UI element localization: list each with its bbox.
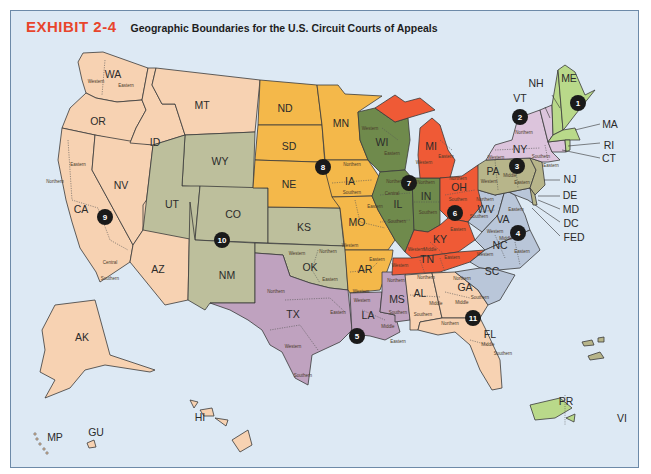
state-ak [40, 300, 155, 398]
district-label: Eastern [444, 255, 460, 260]
district-label: Middle [429, 301, 443, 306]
district-label: Eastern [390, 339, 406, 344]
label-wy: WY [212, 155, 229, 167]
district-label: Northern [267, 289, 285, 294]
district-label: Southern [388, 219, 407, 224]
district-label: Southern [532, 154, 551, 159]
svg-text:3: 3 [515, 162, 520, 171]
label-fl: FL [484, 328, 496, 340]
territory-mp [34, 433, 48, 454]
circuit-badge-2[interactable]: 2 [512, 109, 528, 125]
label-me: ME [561, 72, 577, 84]
district-label: Eastern [438, 154, 454, 159]
label-or: OR [90, 115, 106, 127]
district-label: Southern [414, 312, 433, 317]
svg-text:9: 9 [103, 213, 108, 222]
district-label: Northern [417, 275, 435, 280]
district-label: Western [285, 344, 302, 349]
circuit-badge-9[interactable]: 9 [97, 209, 113, 225]
label-mp: MP [47, 431, 63, 443]
label-nh: NH [528, 77, 543, 89]
label-wi: WI [376, 136, 389, 148]
district-label: Western [289, 251, 306, 256]
label-wv: WV [478, 203, 495, 215]
label-oh: OH [451, 181, 467, 193]
district-label: Western [354, 298, 371, 303]
district-label: Southern [471, 295, 490, 300]
district-label: Middle [503, 173, 517, 178]
label-vt: VT [513, 92, 527, 104]
svg-text:7: 7 [407, 179, 412, 188]
label-ri: RI [604, 139, 615, 151]
district-label: Southern [343, 190, 362, 195]
circuit-badge-3[interactable]: 3 [509, 158, 525, 174]
district-label: Southern [449, 197, 468, 202]
label-ak: AK [75, 331, 89, 343]
circuit-badge-11[interactable]: 11 [465, 310, 481, 326]
district-label: Western [487, 229, 504, 234]
district-label: Western [416, 160, 433, 165]
label-mt: MT [194, 99, 210, 111]
district-label: Eastern [367, 204, 383, 209]
label-wa: WA [105, 68, 122, 80]
circuit-badge-6[interactable]: 6 [447, 205, 463, 221]
circuit-badge-10[interactable]: 10 [214, 232, 230, 248]
district-label: Western [392, 263, 409, 268]
circuit-badge-4[interactable]: 4 [510, 225, 526, 241]
svg-text:8: 8 [321, 163, 326, 172]
district-label: Northern [46, 179, 64, 184]
label-il: IL [394, 198, 403, 210]
label-pr: PR [559, 395, 574, 407]
label-gu: GU [88, 426, 104, 438]
label-sc: SC [485, 265, 500, 277]
label-ms: MS [389, 293, 405, 305]
district-label: Eastern [330, 310, 346, 315]
label-fed: FED [564, 231, 585, 243]
district-label: Middle [423, 247, 437, 252]
district-label: Western [362, 126, 379, 131]
label-dc: DC [563, 217, 579, 229]
circuit-badge-5[interactable]: 5 [349, 328, 365, 344]
label-mi: MI [425, 140, 437, 152]
label-va: VA [496, 213, 509, 225]
label-ct: CT [602, 152, 617, 164]
label-ia: IA [345, 175, 355, 187]
district-label: Northern [343, 162, 361, 167]
label-vi: VI [617, 412, 627, 424]
district-label: Middle [381, 324, 395, 329]
district-label: Central [103, 260, 118, 265]
svg-text:5: 5 [355, 332, 360, 341]
svg-text:11: 11 [469, 314, 478, 323]
label-de: DE [563, 189, 578, 201]
label-ma: MA [602, 118, 618, 130]
label-tx: TX [286, 308, 299, 320]
district-label: Eastern [369, 257, 385, 262]
label-hi: HI [195, 411, 206, 423]
state-hi [190, 400, 252, 452]
label-id: ID [150, 136, 161, 148]
district-label: Eastern [514, 180, 530, 185]
district-label: Western [342, 243, 359, 248]
district-label: Southern [389, 310, 408, 315]
circuit-badge-7[interactable]: 7 [401, 175, 417, 191]
label-md: MD [563, 203, 580, 215]
district-label: Central [385, 191, 400, 196]
svg-text:1: 1 [576, 99, 581, 108]
district-label: Eastern [322, 277, 338, 282]
district-label: Northern [476, 197, 494, 202]
label-ok: OK [302, 261, 317, 273]
district-label: Eastern [514, 249, 530, 254]
district-label: Southern [294, 373, 313, 378]
label-pa: PA [486, 165, 499, 177]
district-label: Eastern [384, 151, 400, 156]
label-la: LA [362, 309, 375, 321]
district-label: Eastern [70, 162, 86, 167]
district-label: Northern [453, 276, 471, 281]
district-label: Western [88, 79, 105, 84]
circuit-badge-8[interactable]: 8 [315, 159, 331, 175]
circuit-badge-1[interactable]: 1 [570, 95, 586, 111]
territory-gu [87, 440, 96, 448]
label-ky: KY [433, 233, 447, 245]
label-al: AL [414, 287, 427, 299]
district-label: Eastern [543, 163, 559, 168]
